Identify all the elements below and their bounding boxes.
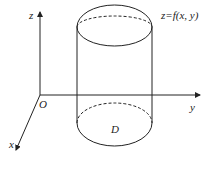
top-ellipse-back (77, 16, 152, 27)
cylinder-diagram: z y x O z=f(x, y) D (0, 0, 207, 169)
z-axis-label: z (28, 9, 34, 21)
bottom-ellipse-back (77, 103, 152, 123)
top-ellipse-front (77, 27, 152, 46)
x-axis (16, 95, 40, 150)
y-axis-label: y (189, 101, 195, 113)
region-label: D (110, 123, 119, 135)
x-axis-label: x (8, 138, 14, 150)
surface-label: z=f(x, y) (160, 9, 199, 22)
origin-label: O (39, 98, 47, 110)
